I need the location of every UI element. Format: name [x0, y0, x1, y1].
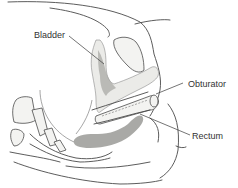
back-contour-right-tail: [176, 146, 186, 148]
rectum-leader-line: [140, 114, 190, 135]
pelvic-floor-line-4: [66, 162, 150, 168]
obturator-label: Obturator: [188, 79, 226, 89]
sacral-segment-4: [54, 140, 66, 152]
pelvic-floor-line-3: [10, 152, 60, 162]
rectum-label: Rectum: [192, 131, 223, 141]
pelvic-anatomy-diagram: [0, 0, 238, 188]
sacral-soft-tissue-contour: [40, 90, 74, 142]
pubic-bone: [114, 37, 144, 72]
coccyx-small: [11, 129, 24, 146]
back-contour-right: [160, 104, 179, 178]
anterior-rectal-contour: [76, 100, 92, 134]
obturator-tip: [150, 95, 158, 107]
bladder-label: Bladder: [34, 30, 65, 40]
bottom-contour: [14, 162, 162, 184]
